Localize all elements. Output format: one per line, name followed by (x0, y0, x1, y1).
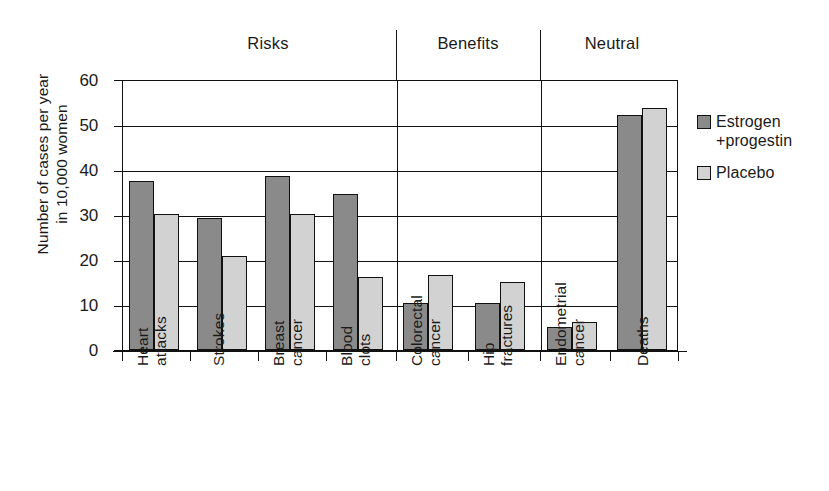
y-tick-label-60: 60 (52, 72, 98, 89)
x-axis-line (113, 351, 687, 352)
y-tick-mark-30 (114, 216, 123, 217)
x-cat-label-endometrial-cancer: Endometrial cancer (552, 282, 588, 366)
y-tick-label-40: 40 (52, 162, 98, 179)
bars-layer (123, 81, 677, 350)
bar-chart: Number of cases per year in 10,000 women… (0, 0, 829, 491)
y-tick-mark-10 (114, 306, 123, 307)
x-cat-label-hip-fractures: Hip fractures (480, 305, 516, 366)
x-tick-0 (122, 351, 123, 361)
x-cat-label-strokes: Strokes (210, 313, 228, 366)
group-header-neutral: Neutral (542, 34, 682, 53)
legend-swatch-icon-estrogen-progestin (697, 115, 711, 129)
group-divider-top-1 (396, 30, 397, 82)
x-cat-label-breast-cancer: Breast cancer (270, 319, 306, 366)
legend-entry-placebo: Placebo (697, 163, 829, 182)
x-cat-label-blood-clots: Blood clots (338, 326, 374, 366)
legend-label-placebo: Placebo (716, 163, 829, 182)
x-tick-3 (326, 351, 327, 361)
bar-deaths-estrogen-progestin (617, 115, 642, 350)
x-tick-4 (396, 351, 397, 361)
legend-entry-estrogen-progestin: Estrogen +progestin (697, 112, 829, 150)
y-tick-mark-20 (114, 261, 123, 262)
y-tick-mark-50 (114, 126, 123, 127)
bar-deaths-placebo (642, 108, 667, 350)
x-cat-label-deaths: Deaths (634, 316, 652, 366)
y-tick-label-50: 50 (52, 117, 98, 134)
x-tick-1 (190, 351, 191, 361)
group-divider-top-2 (540, 30, 541, 82)
legend-swatch-icon-placebo (697, 166, 711, 180)
x-tick-7 (610, 351, 611, 361)
y-tick-mark-60 (114, 80, 123, 81)
group-header-risks: Risks (140, 34, 396, 53)
x-tick-2 (258, 351, 259, 361)
x-tick-6 (540, 351, 541, 361)
legend-label-estrogen-progestin: Estrogen +progestin (716, 112, 829, 150)
plot-area (122, 80, 678, 351)
y-tick-label-0: 0 (52, 342, 98, 359)
x-tick-8 (678, 351, 679, 361)
group-header-benefits: Benefits (398, 34, 538, 53)
y-tick-label-30: 30 (52, 207, 98, 224)
y-tick-label-20: 20 (52, 252, 98, 269)
x-tick-5 (468, 351, 469, 361)
x-cat-label-heart-attacks: Heart attacks (134, 316, 170, 366)
x-cat-label-colorectal-cancer: Colorectal cancer (408, 295, 444, 366)
y-tick-label-10: 10 (52, 297, 98, 314)
legend: Estrogen +progestin Placebo (697, 112, 829, 195)
y-tick-mark-40 (114, 171, 123, 172)
